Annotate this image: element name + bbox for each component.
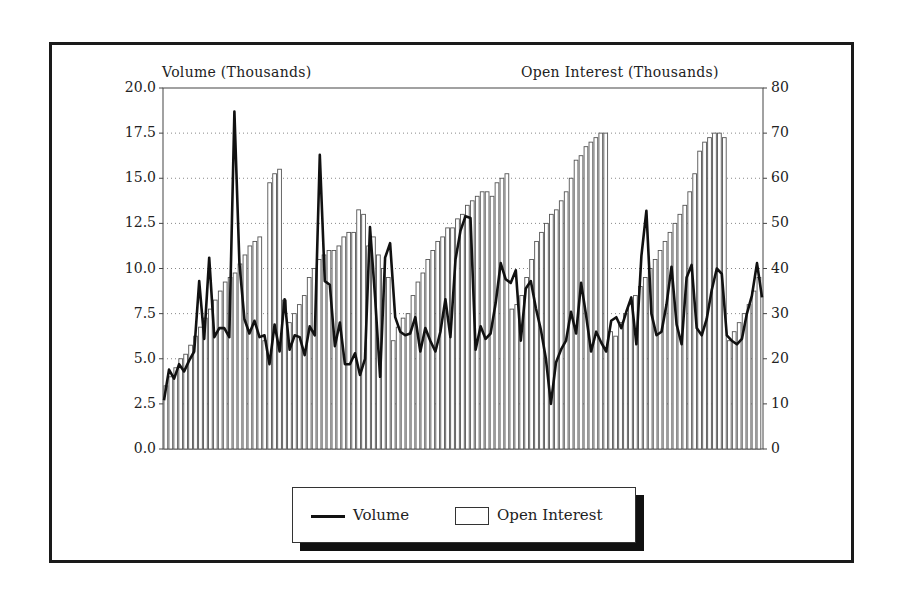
right-tick-label: 30 — [771, 305, 789, 321]
open-interest-bar-swatch-icon — [455, 507, 489, 525]
left-tick-label: 15.0 — [125, 169, 156, 185]
right-tick-label: 0 — [771, 440, 780, 456]
volume-line-swatch-icon — [311, 515, 345, 518]
right-tick-label: 20 — [771, 350, 789, 366]
left-tick-label: 12.5 — [125, 214, 156, 230]
right-tick-label: 10 — [771, 395, 789, 411]
left-tick-label: 10.0 — [125, 260, 156, 276]
left-tick-label: 7.5 — [134, 305, 156, 321]
left-tick-label: 5.0 — [134, 350, 156, 366]
left-tick-label: 0.0 — [134, 440, 156, 456]
left-tick-label: 17.5 — [125, 124, 156, 140]
right-tick-label: 60 — [771, 169, 789, 185]
left-tick-label: 20.0 — [125, 79, 156, 95]
right-tick-label: 40 — [771, 260, 789, 276]
legend-open-interest-label: Open Interest — [497, 506, 602, 524]
left-tick-label: 2.5 — [134, 395, 156, 411]
right-tick-label: 50 — [771, 214, 789, 230]
legend: Volume Open Interest — [292, 487, 636, 543]
right-tick-label: 70 — [771, 124, 789, 140]
right-tick-label: 80 — [771, 79, 789, 95]
legend-volume-label: Volume — [353, 506, 409, 524]
